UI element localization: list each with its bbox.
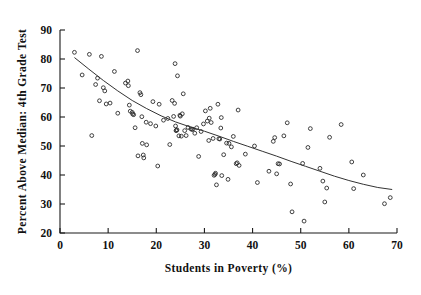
data-point — [173, 62, 177, 66]
data-point — [226, 177, 230, 181]
y-tick-label: 40 — [41, 169, 53, 181]
trend-line-group — [74, 58, 392, 190]
y-tick-label: 50 — [41, 140, 53, 152]
x-tick-label: 0 — [57, 239, 63, 251]
y-tick-label: 90 — [41, 24, 53, 36]
data-point — [149, 122, 153, 126]
data-point — [289, 182, 293, 186]
data-point — [325, 186, 329, 190]
data-point — [267, 169, 271, 173]
data-point — [339, 123, 343, 127]
data-point — [184, 134, 188, 138]
x-tick-labels: 010203040506070 — [57, 239, 403, 251]
data-point — [215, 183, 219, 187]
data-point — [197, 155, 201, 159]
data-point — [94, 83, 98, 87]
data-point — [140, 141, 144, 145]
data-point — [222, 153, 226, 157]
data-point — [168, 143, 172, 147]
data-point — [271, 139, 275, 143]
data-point — [73, 50, 77, 54]
data-point — [126, 84, 130, 88]
data-point — [133, 126, 137, 130]
data-point — [219, 116, 223, 120]
data-point — [253, 144, 257, 148]
data-point — [156, 164, 160, 168]
data-point — [285, 121, 289, 125]
data-point — [145, 143, 149, 147]
data-point — [275, 172, 279, 176]
data-point — [388, 196, 392, 200]
x-tick-label: 20 — [151, 239, 163, 251]
y-axis-title: Percent Above Median: 4th Grade Test — [16, 29, 28, 235]
data-point — [136, 154, 140, 158]
data-point — [231, 135, 235, 139]
data-point — [219, 126, 223, 130]
data-point — [103, 89, 107, 93]
data-point — [328, 135, 332, 139]
y-tick-label: 60 — [41, 111, 53, 123]
data-point — [227, 141, 231, 145]
data-point — [179, 134, 183, 138]
data-point — [207, 139, 211, 143]
data-point — [208, 106, 212, 110]
x-tick-label: 30 — [199, 239, 211, 251]
data-point — [229, 145, 233, 149]
trend-line — [74, 58, 392, 190]
data-point — [136, 49, 140, 53]
chart-canvas: 010203040506070 2030405060708090 Student… — [0, 0, 421, 295]
data-point — [203, 109, 207, 113]
x-tick-label: 70 — [391, 239, 403, 251]
data-point — [162, 118, 166, 122]
axis-frame — [60, 30, 397, 233]
data-point — [211, 137, 215, 141]
data-point — [216, 102, 220, 106]
tick-marks-group — [60, 30, 397, 233]
data-point — [243, 152, 247, 156]
data-point — [220, 174, 224, 178]
data-point — [352, 187, 356, 191]
y-tick-labels: 2030405060708090 — [41, 24, 53, 239]
data-points-group — [73, 49, 393, 223]
data-point — [154, 124, 158, 128]
x-tick-label: 50 — [295, 239, 307, 251]
data-point — [202, 122, 206, 126]
data-point — [321, 179, 325, 183]
y-tick-label: 70 — [41, 82, 53, 94]
data-point — [255, 181, 259, 185]
data-point — [144, 120, 148, 124]
y-tick-label: 30 — [41, 198, 53, 210]
data-point — [172, 115, 176, 119]
data-point — [290, 210, 294, 214]
data-point — [104, 102, 108, 106]
data-point — [318, 166, 322, 170]
data-point — [207, 116, 211, 120]
data-point — [282, 134, 286, 138]
data-point — [209, 121, 213, 125]
data-point — [361, 173, 365, 177]
data-point — [323, 200, 327, 204]
x-tick-label: 40 — [247, 239, 259, 251]
data-point — [306, 146, 310, 150]
data-point — [127, 103, 131, 107]
data-point — [176, 74, 180, 78]
data-point — [113, 70, 117, 74]
data-point — [108, 101, 112, 105]
x-axis-title: Students in Poverty (%) — [165, 262, 293, 275]
data-point — [174, 124, 178, 128]
data-point — [80, 73, 84, 77]
data-point — [116, 111, 120, 115]
y-tick-label: 20 — [41, 227, 53, 239]
data-point — [157, 102, 161, 106]
data-point — [193, 131, 197, 135]
data-point — [273, 136, 277, 140]
data-point — [236, 108, 240, 112]
data-point — [183, 129, 187, 133]
data-point — [181, 92, 185, 96]
data-point — [151, 100, 155, 104]
data-point — [140, 115, 144, 119]
axes-group — [60, 30, 397, 233]
data-point — [302, 219, 306, 223]
x-tick-label: 10 — [102, 239, 114, 251]
data-point — [173, 101, 177, 105]
